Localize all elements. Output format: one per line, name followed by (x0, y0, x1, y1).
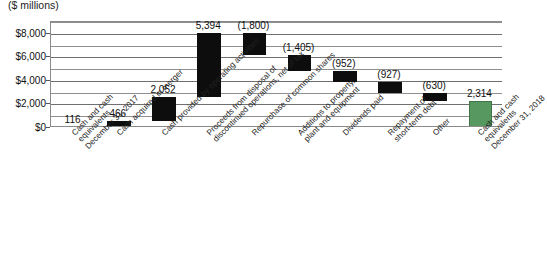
bar-value-label: 116 (65, 114, 81, 125)
y-axis-tick-label: $4,000 (2, 74, 46, 85)
y-axis-tick-label: $0 (2, 122, 46, 133)
bar-value-label: 466 (109, 108, 126, 119)
y-axis-tick-mark (46, 56, 50, 57)
y-axis-tick-mark (46, 103, 50, 104)
y-axis-tick-mark (46, 127, 50, 128)
y-axis-tick-label: $6,000 (2, 51, 46, 62)
bar-value-label: 5,394 (196, 20, 221, 31)
y-axis-tick-mark (46, 33, 50, 34)
bar-value-label: (927) (377, 69, 400, 80)
y-axis-tick-mark (46, 80, 50, 81)
bar-value-label: (630) (423, 80, 446, 91)
bar-value-label: (1,800) (238, 20, 270, 31)
y-axis-tick-label: $2,000 (2, 98, 46, 109)
bar-value-label: (1,405) (283, 42, 315, 53)
bar-value-label: (952) (332, 58, 355, 69)
bar-value-label: 2,314 (467, 88, 492, 99)
bar-value-label: 2,052 (150, 84, 175, 95)
y-axis-tick-label: $8,000 (2, 27, 46, 38)
